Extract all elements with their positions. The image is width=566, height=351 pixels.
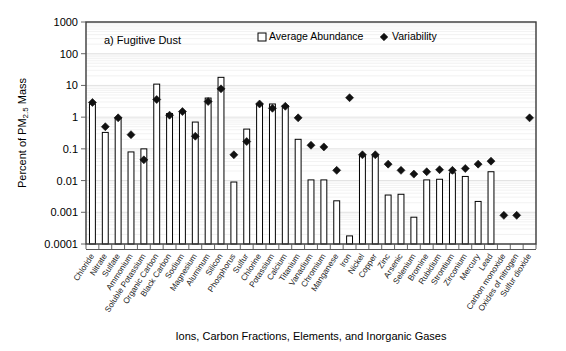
bar-bromine bbox=[424, 180, 430, 244]
bar-zinc bbox=[385, 195, 391, 244]
y-tick-label: 10 bbox=[66, 79, 78, 91]
bar-calcium bbox=[282, 106, 288, 244]
bar-mercury bbox=[475, 201, 481, 244]
bar-copper bbox=[372, 156, 378, 244]
bar-strontium bbox=[449, 173, 455, 244]
diamond-vanadium bbox=[307, 141, 315, 149]
bar-titanium bbox=[295, 139, 301, 244]
diamond-ammonium bbox=[127, 131, 135, 139]
bar-iron bbox=[347, 236, 353, 244]
bar-chloride bbox=[89, 104, 95, 244]
bar-manganese bbox=[334, 201, 340, 244]
diamond-manganese bbox=[333, 166, 341, 174]
svg-text:Percent of PM2.5 Mass: Percent of PM2.5 Mass bbox=[16, 77, 30, 188]
legend: Average AbundanceVariability bbox=[258, 30, 437, 42]
bar-black-carbon bbox=[167, 114, 173, 244]
bar-vanadium bbox=[308, 180, 314, 244]
diamond-rubidium bbox=[436, 166, 444, 174]
bar-zirconium bbox=[462, 176, 468, 244]
panel-label: a) Fugitive Dust bbox=[104, 34, 181, 46]
diamond-sulfur-dioxide bbox=[526, 114, 534, 122]
bar-rubidium bbox=[437, 179, 443, 244]
bar-chlorine bbox=[257, 104, 263, 244]
bar-arsenic bbox=[398, 194, 404, 244]
bar-sulfur bbox=[244, 129, 250, 244]
y-tick-label: 0.01 bbox=[57, 175, 78, 187]
bar-nitrate bbox=[102, 132, 108, 244]
legend-swatch-average-abundance bbox=[258, 33, 266, 41]
bar-selenium bbox=[411, 217, 417, 244]
diamond-arsenic bbox=[397, 166, 405, 174]
y-axis-title: Percent of PM2.5 Mass bbox=[16, 77, 30, 188]
bar-potassium bbox=[269, 104, 275, 244]
y-tick-label: 0.1 bbox=[63, 143, 78, 155]
diamond-chromium bbox=[320, 143, 328, 151]
bars-average-abundance bbox=[89, 77, 493, 244]
bar-sulfate bbox=[115, 118, 121, 244]
x-axis-title: Ions, Carbon Fractions, Elements, and In… bbox=[176, 330, 447, 342]
figure-container: 10001001010.10.010.0010.0001ChlorideNitr… bbox=[0, 0, 566, 351]
bar-sodium bbox=[179, 113, 185, 244]
y-tick-label: 100 bbox=[60, 48, 78, 60]
diamond-titanium bbox=[294, 114, 302, 122]
fugitive-dust-chart: 10001001010.10.010.0010.0001ChlorideNitr… bbox=[0, 0, 566, 351]
y-tick-label: 1000 bbox=[54, 16, 78, 28]
legend-label-average-abundance: Average Abundance bbox=[269, 30, 364, 42]
y-tick-label: 0.001 bbox=[50, 206, 78, 218]
y-tick-label: 0.0001 bbox=[44, 238, 78, 250]
bar-organic-carbon bbox=[154, 84, 160, 244]
bar-silicon bbox=[218, 77, 224, 244]
x-axis-ticks bbox=[86, 244, 536, 250]
bar-ammonium bbox=[128, 152, 134, 244]
y-tick-label: 1 bbox=[72, 111, 78, 123]
bar-chromium bbox=[321, 180, 327, 244]
bar-nickel bbox=[359, 156, 365, 244]
x-category-labels: ChlorideNitrateSulfateAmmoniumSoluble Po… bbox=[72, 251, 534, 314]
bar-phosphorus bbox=[231, 182, 237, 244]
y-axis: 10001001010.10.010.0010.0001 bbox=[44, 16, 86, 250]
diamond-bromine bbox=[423, 168, 431, 176]
legend-label-variability: Variability bbox=[392, 30, 437, 42]
bar-lead bbox=[488, 172, 494, 244]
bar-aluminum bbox=[205, 98, 211, 244]
